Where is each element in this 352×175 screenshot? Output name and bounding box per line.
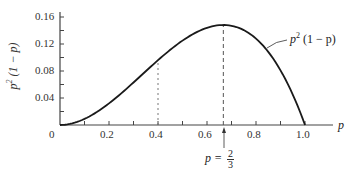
arrow-head-icon [222,127,226,133]
curve-label-rest: (1 − p) [303,32,336,46]
curve-p2-1-p [60,25,305,125]
curve-label: p2 (1 − p) [290,31,336,47]
x-tick-label-0: 0 [49,128,55,140]
max-annotation-fraction: 2 3 [227,149,234,170]
curve-label-exp: 2 [296,31,300,40]
y-tick-label-012: 0.12 [35,37,54,49]
y-axis-label: p2 (1 − p) [5,41,21,91]
y-axis-label-base: p [6,84,20,90]
y-tick-label-004: 0.04 [35,91,54,103]
y-axis-label-exp: 2 [5,80,14,84]
x-tick-label-08: 0.8 [247,128,261,140]
y-tick-label-016: 0.16 [35,10,54,22]
x-tick-label-06: 0.6 [198,128,212,140]
x-tick-label-04: 0.4 [149,128,163,140]
fraction-denominator: 3 [228,160,233,170]
y-tick-label-008: 0.08 [35,64,54,76]
max-annotation-lhs: p = [205,151,222,165]
curve-label-leader [267,40,287,48]
x-tick-label-02: 0.2 [100,128,114,140]
y-axis-label-rest: (1 − p) [6,42,20,76]
chart-canvas [0,0,352,175]
max-annotation: p = 2 3 [205,149,234,170]
x-axis-label: p [338,118,344,133]
x-tick-label-10: 1.0 [296,128,310,140]
